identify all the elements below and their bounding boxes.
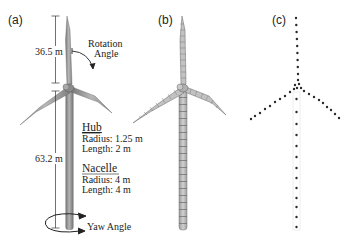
nacelle-length: Length: 4 m (82, 184, 131, 195)
tower (66, 88, 74, 230)
blade-length-label: 36.5 m (35, 46, 63, 57)
panel-c-label: (c) (272, 13, 286, 27)
rotation-label-line2: Angle (94, 48, 119, 59)
panel-b-label: (b) (158, 13, 173, 27)
panel-b: (b) (133, 13, 226, 230)
node-points (250, 17, 340, 228)
turbine-figure: (a) 36.5 m 63.2 m (0, 0, 354, 248)
rotation-angle-arrow-icon (72, 48, 95, 69)
hub-length: Length: 2 m (82, 143, 131, 154)
panel-a-label: (a) (8, 13, 23, 27)
tower-height-label: 63.2 m (35, 153, 63, 164)
nacelle-title: Nacelle (82, 162, 117, 174)
panel-c: (c) (250, 13, 340, 230)
panel-a: (a) 36.5 m 63.2 m (8, 13, 143, 234)
yaw-angle-label: Yaw Angle (87, 221, 132, 232)
hub-title: Hub (82, 121, 102, 133)
